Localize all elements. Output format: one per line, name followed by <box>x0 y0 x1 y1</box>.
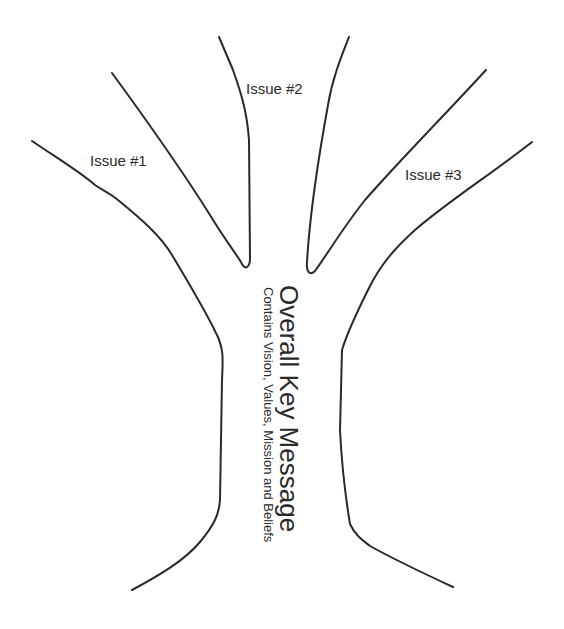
trunk-left-outer-edge <box>32 141 223 590</box>
trunk-subtitle: Contains Vision, Values, Mission and Bel… <box>261 287 276 542</box>
trunk-right-outer-edge <box>340 142 532 587</box>
branch-label-issue-1: Issue #1 <box>90 152 147 169</box>
branch-issue-2-3-edge <box>307 37 486 273</box>
trunk-title: Overall Key Message <box>273 285 304 532</box>
branch-label-issue-2: Issue #2 <box>246 80 303 97</box>
branch-label-issue-3: Issue #3 <box>405 166 462 183</box>
